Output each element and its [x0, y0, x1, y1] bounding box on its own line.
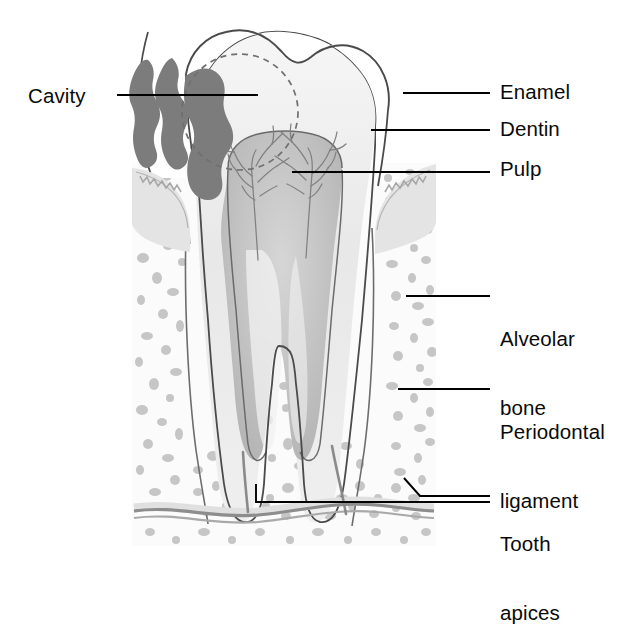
label-alveolar-bone-line1: Alveolar: [500, 327, 575, 350]
label-tooth-apices-line2: apices: [500, 601, 560, 624]
label-tooth-apices-line1: Tooth: [500, 532, 560, 555]
label-dentin: Dentin: [500, 117, 560, 140]
label-pulp: Pulp: [500, 157, 541, 180]
label-periodontal-line1: Periodontal: [500, 420, 605, 443]
label-enamel: Enamel: [500, 80, 570, 103]
label-cavity: Cavity: [28, 84, 86, 107]
figure-caption: [0, 556, 625, 572]
